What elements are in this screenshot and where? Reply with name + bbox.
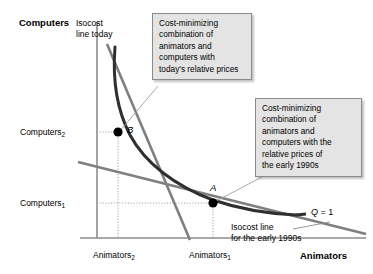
callout-today-line-1: Cost-minimizing [159, 18, 246, 29]
point-B [113, 127, 122, 136]
isoquant-isocost-figure: Computers Animators Computers2 Computers… [0, 0, 373, 274]
x-tick-animators-1-sub: 1 [227, 254, 231, 261]
callout-1990s-line-6: the early 1990s [262, 160, 356, 171]
x-tick-animators-2: Animators2 [93, 250, 135, 261]
annotation-isocost-1990s-line2: for the early 1990s [231, 233, 301, 244]
callout-today-line-5: today's relative prices [159, 64, 246, 75]
x-tick-animators-1-text: Animators [189, 250, 227, 260]
x-tick-animators-2-text: Animators [93, 250, 131, 260]
annotation-isocost-today-line1: Isocost [76, 18, 112, 29]
isoquant-value: = 1 [321, 207, 334, 217]
x-axis-title: Animators [300, 250, 347, 262]
annotation-isocost-1990s: Isocost line for the early 1990s [231, 222, 301, 244]
callout-1990s-line-1: Cost-minimizing [262, 103, 356, 114]
isoquant-symbol: Q [311, 207, 318, 217]
point-label-A: A [210, 182, 216, 193]
callout-1990s-line-4: computers with the [262, 137, 356, 148]
point-label-B: B [127, 124, 133, 135]
y-tick-computers-2: Computers2 [20, 127, 65, 138]
x-tick-animators-1: Animators1 [189, 250, 231, 261]
isoquant-label: Q = 1 [311, 207, 333, 217]
point-A [208, 198, 217, 207]
annotation-isocost-today-line2: line today [76, 29, 112, 40]
callout-1990s-line-3: animators and [262, 126, 356, 137]
x-tick-animators-2-sub: 2 [131, 254, 135, 261]
callout-today-line-4: computers with [159, 52, 246, 63]
guide-lines [97, 132, 213, 238]
callout-1990s-line-2: combination of [262, 114, 356, 125]
y-tick-computers-2-text: Computers [20, 127, 62, 137]
callout-1990s: Cost-minimizing combination of animators… [255, 98, 362, 177]
callout-1990s-line-5: relative prices of [262, 149, 356, 160]
y-tick-computers-1-sub: 1 [62, 202, 66, 209]
callout-today: Cost-minimizing combination of animators… [152, 13, 252, 80]
y-tick-computers-1-text: Computers [20, 198, 62, 208]
annotation-isocost-1990s-line1: Isocost line [231, 222, 301, 233]
y-tick-computers-1: Computers1 [20, 198, 65, 209]
callout-today-line-3: animators and [159, 41, 246, 52]
y-tick-computers-2-sub: 2 [62, 131, 66, 138]
y-axis-title: Computers [19, 17, 69, 29]
annotation-isocost-today: Isocost line today [76, 18, 112, 40]
isoquant-end-mark [296, 214, 306, 215]
callout-today-line-2: combination of [159, 29, 246, 40]
